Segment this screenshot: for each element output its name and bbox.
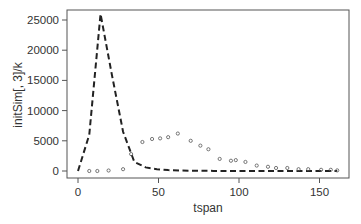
- observed-point: [274, 166, 277, 169]
- observed-point: [244, 160, 247, 163]
- observed-point: [159, 137, 162, 140]
- observed-point: [176, 132, 179, 135]
- observed-point: [141, 140, 144, 143]
- observed-point: [107, 169, 110, 172]
- observed-point: [88, 169, 91, 172]
- x-tick-label: 150: [310, 186, 329, 198]
- y-tick-label: 0: [53, 165, 59, 177]
- y-axis: 0500010000150002000025000: [27, 14, 67, 177]
- chart-svg: 0500010000150002000025000 050100150 tspa…: [0, 0, 361, 224]
- chart: 0500010000150002000025000 050100150 tspa…: [0, 0, 361, 224]
- observed-point: [189, 139, 192, 142]
- y-tick-label: 10000: [27, 105, 59, 117]
- observed-point: [218, 157, 221, 160]
- observed-point: [207, 148, 210, 151]
- x-axis-label: tspan: [193, 201, 222, 215]
- observed-point: [234, 159, 237, 162]
- x-axis: 050100150: [75, 178, 329, 198]
- x-tick-label: 0: [75, 186, 81, 198]
- observed-point: [199, 144, 202, 147]
- y-axis-label: initSim[, 3]/k: [11, 61, 25, 127]
- observed-point: [167, 136, 170, 139]
- y-tick-label: 5000: [33, 135, 59, 147]
- y-tick-label: 15000: [27, 74, 59, 86]
- observed-point: [130, 152, 133, 155]
- observed-point: [286, 166, 289, 169]
- observed-point: [255, 164, 258, 167]
- observed-point: [96, 169, 99, 172]
- y-tick-label: 25000: [27, 14, 59, 26]
- observed-point: [150, 137, 153, 140]
- y-tick-label: 20000: [27, 44, 59, 56]
- observed-point: [121, 168, 124, 171]
- x-tick-label: 100: [229, 186, 248, 198]
- plot-series: [78, 14, 339, 173]
- plot-frame: [67, 10, 349, 178]
- x-tick-label: 50: [152, 186, 165, 198]
- observed-point: [266, 165, 269, 168]
- observed-point: [229, 159, 232, 162]
